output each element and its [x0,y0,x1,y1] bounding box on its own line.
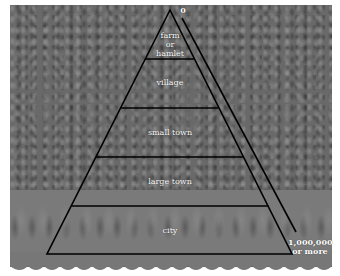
tier-label-city: city [145,226,195,235]
scale-label-max: 1,000,000 or more [288,238,332,256]
tier-label-small-town: small town [135,128,205,137]
tier-label-large-town: large town [135,177,205,186]
tier-label-line: farm [155,31,185,40]
tier-label-village: village [145,78,195,87]
tier-label-line: hamlet [155,49,185,58]
tier-label-farm-hamlet: farm or hamlet [155,31,185,58]
scale-label-line: or more [288,247,332,256]
population-scale-line [182,18,296,232]
tier-label-line: or [155,40,185,49]
scale-label-zero: 0 [178,6,188,15]
